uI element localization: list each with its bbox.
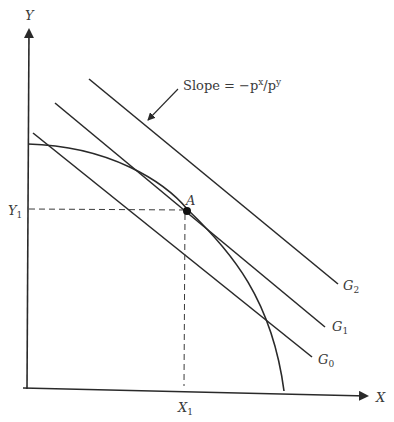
slope-annotation: Slope = −px/py [183,77,282,93]
production-possibility-diagram: Y X A Y1 X1 G2 G1 G0 Slope = −px/py [0,0,394,422]
tangency-point-a [183,207,191,215]
y1-tick-label: Y1 [8,203,22,220]
x-axis-label: X [375,390,386,405]
g0-label: G0 [318,352,334,369]
g1-label: G1 [332,319,348,336]
dashed-guide-x1 [184,214,185,386]
x-axis [23,388,367,396]
isorevenue-line-g2 [89,79,338,284]
x1-tick-label: X1 [177,400,193,417]
y-axis [27,30,29,389]
isorevenue-line-g0 [33,133,312,357]
isorevenue-line-g1 [55,103,325,327]
production-possibility-curve [28,144,284,391]
point-a-label: A [185,193,195,208]
dashed-guide-y1 [29,209,186,210]
g2-label: G2 [343,278,359,295]
y-axis-label: Y [25,8,35,23]
slope-annotation-arrow [148,89,178,120]
